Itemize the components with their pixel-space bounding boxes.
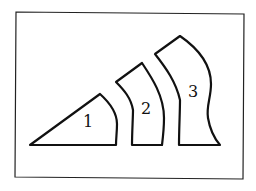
shape-3-label: 3 (188, 82, 198, 101)
diagram-canvas: 1 2 3 (0, 0, 256, 191)
shape-1-label: 1 (83, 112, 93, 131)
shape-1-outline (30, 94, 117, 145)
diagram-figure: 1 2 3 (0, 0, 256, 191)
shape-2-label: 2 (141, 99, 151, 118)
